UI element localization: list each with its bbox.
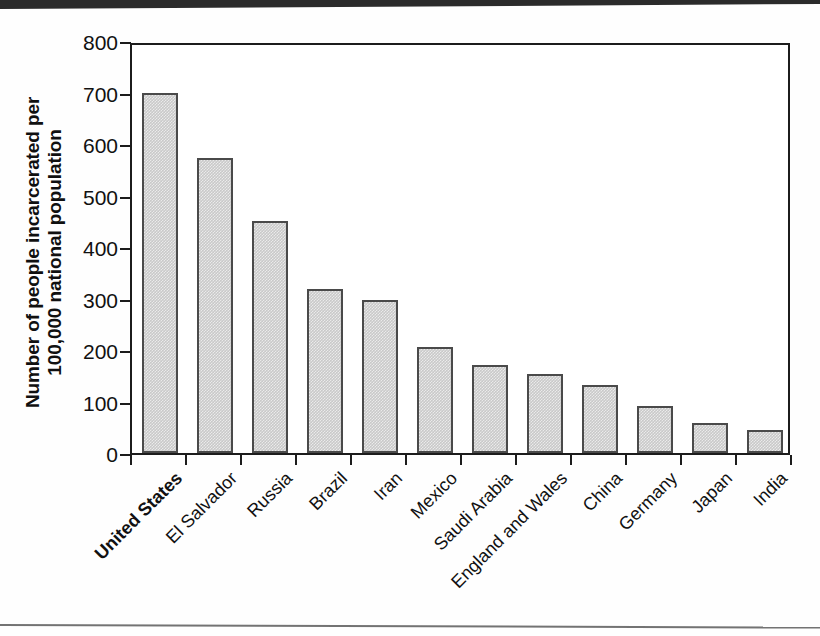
x-axis-label: Russia	[243, 468, 297, 522]
bar	[582, 385, 618, 453]
scanned-page: Number of people incarcerated per 100,00…	[0, 0, 820, 636]
x-tick-mark	[240, 455, 242, 465]
y-tick-label: 300	[28, 289, 118, 313]
y-tick-label: 100	[28, 392, 118, 416]
x-axis-label: Germany	[614, 468, 681, 535]
y-tick-label: 500	[28, 186, 118, 210]
x-axis-label: Iran	[370, 468, 407, 505]
x-axis-label: India	[749, 468, 791, 510]
bar	[197, 158, 233, 453]
plot-area	[130, 43, 790, 455]
y-tick-label: 800	[28, 31, 118, 55]
y-tick-label: 600	[28, 134, 118, 158]
bar	[417, 347, 453, 453]
x-tick-mark	[460, 455, 462, 465]
y-tick-label: 0	[28, 443, 118, 467]
bar	[747, 430, 783, 453]
x-tick-mark	[625, 455, 627, 465]
x-tick-mark	[570, 455, 572, 465]
y-tick-label: 400	[28, 237, 118, 261]
bar	[142, 93, 178, 454]
x-axis-label: China	[578, 468, 626, 516]
bar	[527, 374, 563, 453]
y-tick-label: 200	[28, 340, 118, 364]
bar	[307, 289, 343, 453]
x-axis-label: United States	[90, 468, 186, 564]
bar	[637, 406, 673, 453]
x-tick-mark	[515, 455, 517, 465]
x-tick-mark	[350, 455, 352, 465]
bar	[692, 423, 728, 453]
x-tick-mark	[130, 455, 132, 465]
y-tick-label: 700	[28, 83, 118, 107]
bar	[362, 300, 398, 453]
bar	[472, 365, 508, 453]
bar	[252, 221, 288, 453]
x-axis-label: Mexico	[406, 468, 461, 523]
x-tick-mark	[295, 455, 297, 465]
x-axis-label: Japan	[687, 468, 737, 518]
x-axis-label: Brazil	[305, 468, 352, 515]
x-tick-mark	[735, 455, 737, 465]
x-tick-mark	[790, 455, 792, 465]
x-tick-mark	[680, 455, 682, 465]
bar-chart-figure: Number of people incarcerated per 100,00…	[0, 0, 820, 636]
x-tick-mark	[405, 455, 407, 465]
x-tick-mark	[185, 455, 187, 465]
